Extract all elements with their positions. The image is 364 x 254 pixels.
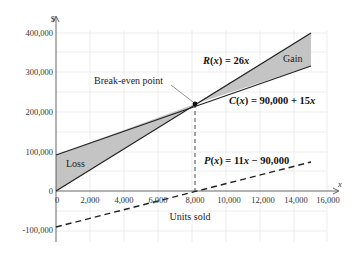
break-even-leader [171, 85, 193, 102]
x-tick-label: 8,000 [185, 195, 204, 205]
y-axis-symbol: $ [51, 14, 55, 24]
y-tick-label: 0 [49, 186, 53, 196]
y-tick-label: 300,000 [25, 67, 53, 77]
y-tick-label: 400,000 [25, 28, 53, 38]
loss-label: Loss [66, 158, 85, 169]
break-even-point [193, 102, 198, 107]
x-tick-label: 16,000 [316, 195, 339, 205]
x-tick-label: 4,000 [114, 195, 133, 205]
x-tick-label: 12,000 [251, 195, 274, 205]
break-even-label: Break-even point [94, 75, 163, 86]
x-tick-label: 2,000 [80, 195, 99, 205]
break-even-chart: 400,000 300,000 200,000 100,000 0 -100,0… [0, 0, 364, 254]
gain-label: Gain [283, 53, 302, 64]
x-axis-symbol: x [337, 179, 342, 189]
y-tick-label: -100,000 [23, 225, 53, 235]
x-tick-label: 0 [55, 195, 59, 205]
profit-equation: P(x) = 11x − 90,000 [204, 155, 289, 167]
x-tick-label: 6,000 [148, 195, 167, 205]
x-tick-labels: 0 2,000 4,000 6,000 8,000 10,000 12,000 … [55, 195, 340, 205]
y-tick-labels: 400,000 300,000 200,000 100,000 0 -100,0… [23, 28, 53, 235]
revenue-equation: R(x) = 26x [202, 55, 249, 67]
cost-equation: C(x) = 90,000 + 15x [229, 95, 315, 107]
x-tick-label: 10,000 [217, 195, 240, 205]
y-tick-label: 100,000 [25, 147, 53, 157]
x-axis-label: Units sold [170, 211, 211, 222]
x-tick-label: 14,000 [284, 195, 307, 205]
y-tick-label: 200,000 [25, 107, 53, 117]
